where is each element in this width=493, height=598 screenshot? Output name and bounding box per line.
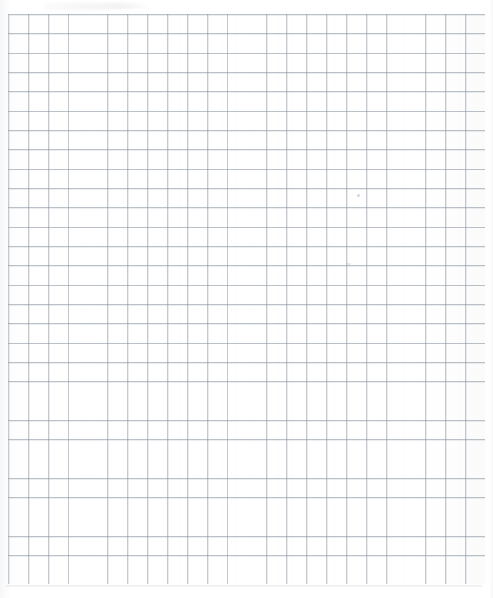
graph-paper-grid — [8, 14, 485, 584]
scanned-page — [0, 0, 493, 598]
